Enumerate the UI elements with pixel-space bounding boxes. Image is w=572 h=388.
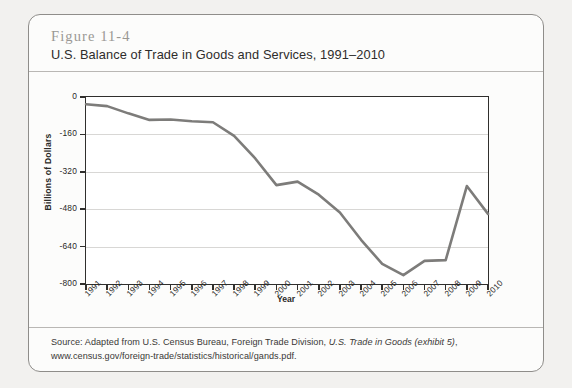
source-publication: U.S. Trade in Goods (exhibit 5) <box>329 337 455 347</box>
figure-header: Figure 11-4 U.S. Balance of Trade in Goo… <box>29 15 543 64</box>
y-axis-tick-label: -800 <box>29 278 77 288</box>
x-axis-title: Year <box>85 294 487 304</box>
figure-number: Figure 11-4 <box>51 28 543 45</box>
y-axis-tick-label: 0 <box>29 91 77 101</box>
source-note: Source: Adapted from U.S. Census Bureau,… <box>51 335 521 363</box>
y-axis-tick-label: -320 <box>29 166 77 176</box>
figure-title: U.S. Balance of Trade in Goods and Servi… <box>51 45 543 64</box>
figure-card: Figure 11-4 U.S. Balance of Trade in Goo… <box>28 14 544 372</box>
footer-divider <box>29 327 543 328</box>
trade-balance-line <box>86 97 488 284</box>
y-axis-tick-label: -640 <box>29 241 77 251</box>
y-axis-tick-label: -480 <box>29 203 77 213</box>
source-line-1: Source: Adapted from U.S. Census Bureau,… <box>51 335 521 349</box>
source-prefix: Source: Adapted from U.S. Census Bureau,… <box>51 337 329 347</box>
chart-region: Billions of Dollars 0-160-320-480-640-80… <box>29 72 545 322</box>
page-background: Figure 11-4 U.S. Balance of Trade in Goo… <box>0 0 572 388</box>
source-url: www.census.gov/foreign-trade/statistics/… <box>51 349 521 363</box>
source-suffix: , <box>455 337 458 347</box>
y-axis-tick-label: -160 <box>29 128 77 138</box>
plot-area <box>85 96 489 285</box>
